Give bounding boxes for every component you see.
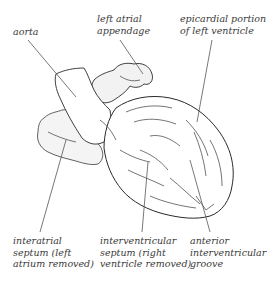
- label-line: interventricular: [100, 235, 191, 247]
- label-line: interventricular: [190, 247, 266, 259]
- label-epicardial-portion: epicardial portion of left ventricle: [180, 13, 266, 36]
- label-line: anterior: [190, 235, 266, 247]
- label-line: of left ventricle: [180, 25, 266, 37]
- label-interatrial-septum: interatrial septum (left atrium removed): [13, 235, 94, 270]
- label-line: atrium removed): [13, 258, 94, 270]
- label-line: septum (right: [100, 247, 191, 259]
- label-line: appendage: [97, 25, 150, 37]
- label-line: groove: [190, 258, 266, 270]
- label-line: left atrial: [97, 13, 150, 25]
- label-anterior-interventricular-groove: anterior interventricular groove: [190, 235, 266, 270]
- label-line: aorta: [13, 26, 38, 38]
- label-aorta: aorta: [13, 26, 38, 38]
- label-line: epicardial portion: [180, 13, 266, 25]
- label-left-atrial-appendage: left atrial appendage: [97, 13, 150, 36]
- label-interventricular-septum: interventricular septum (right ventricle…: [100, 235, 191, 270]
- ventricle-shape: [104, 96, 233, 218]
- label-line: ventricle removed): [100, 258, 191, 270]
- label-line: septum (left: [13, 247, 94, 259]
- label-line: interatrial: [13, 235, 94, 247]
